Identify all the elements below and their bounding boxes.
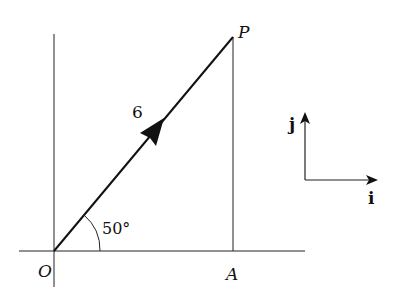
angle-arc [84,215,100,251]
point-a-label: A [224,264,238,284]
unit-i-label: i [368,188,375,208]
point-p-label: P [237,22,250,42]
vector-op [54,37,233,251]
magnitude-label: 6 [132,102,143,122]
unit-j-label: j [287,114,295,134]
angle-label: 50° [102,219,130,238]
arrowhead-icon [140,118,164,146]
vector-diagram: O P A 6 50° j i [0,0,394,291]
origin-label: O [38,261,52,281]
